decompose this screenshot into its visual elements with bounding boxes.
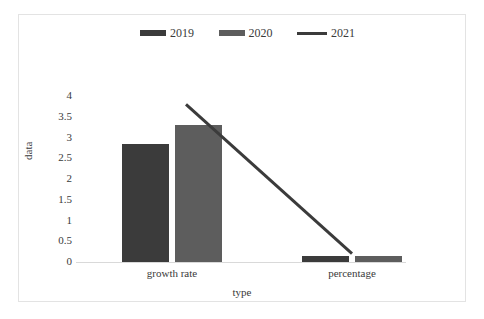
legend-label-2020: 2020 — [249, 27, 273, 39]
y-tick-label: 2 — [38, 173, 72, 184]
legend-label-2021: 2021 — [331, 27, 355, 39]
legend-label-2019: 2019 — [170, 27, 194, 39]
legend-entry-2021[interactable]: 2021 — [297, 27, 355, 39]
legend-entry-2019[interactable]: 2019 — [140, 27, 194, 39]
y-axis-ticks: 43.532.521.510.50 — [36, 0, 72, 319]
y-tick-label: 1 — [38, 215, 72, 226]
y-tick-label: 4 — [38, 90, 72, 101]
y-tick-label: 1.5 — [38, 194, 72, 205]
legend-swatch-2019-icon — [140, 30, 166, 36]
bar-2020-growth-rate — [175, 125, 222, 262]
bar-2020-percentage — [355, 256, 402, 262]
x-axis-baseline — [76, 262, 406, 263]
bar-2019-growth-rate — [122, 144, 169, 262]
y-axis-title: data — [22, 142, 34, 160]
bar-2019-percentage — [302, 256, 349, 262]
y-tick-label: 0 — [38, 256, 72, 267]
chart-legend: 2019 2020 2021 — [140, 24, 355, 42]
y-tick-label: 3.5 — [38, 111, 72, 122]
chart-figure: 2019 2020 2021 43.532.521.510.50 data gr… — [0, 0, 484, 319]
x-tick-label-percentage: percentage — [292, 268, 412, 279]
legend-line-2021-icon — [297, 32, 327, 35]
y-tick-label: 0.5 — [38, 235, 72, 246]
y-tick-label: 2.5 — [38, 152, 72, 163]
y-tick-label: 3 — [38, 132, 72, 143]
legend-entry-2020[interactable]: 2020 — [219, 27, 273, 39]
x-tick-label-growth-rate: growth rate — [112, 268, 232, 279]
legend-swatch-2020-icon — [219, 30, 245, 36]
x-axis-title: type — [0, 286, 484, 298]
